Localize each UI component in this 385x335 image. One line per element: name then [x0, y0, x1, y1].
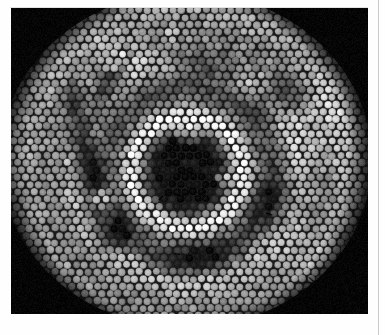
photo-plate	[11, 8, 368, 314]
micrograph-canvas	[11, 8, 368, 314]
right-page-rule	[378, 0, 379, 335]
photo-plate-inner	[11, 8, 368, 314]
page-root: Grayscale micrograph of a hexagonally cl…	[0, 0, 385, 335]
